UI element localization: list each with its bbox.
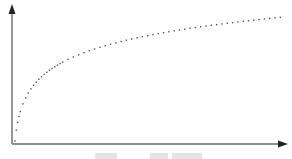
data-point	[38, 79, 39, 80]
data-point	[195, 27, 196, 28]
data-point	[94, 48, 95, 49]
data-point	[242, 21, 243, 22]
data-point	[49, 70, 50, 71]
caption-word	[172, 153, 202, 159]
x-axis-arrow-icon	[278, 141, 288, 148]
data-point	[248, 20, 249, 21]
data-point	[216, 24, 217, 25]
data-point	[179, 29, 180, 30]
data-point	[36, 81, 37, 82]
data-point	[89, 50, 90, 51]
caption-word	[95, 153, 117, 159]
data-point	[51, 68, 52, 69]
data-point	[136, 37, 137, 38]
data-point	[73, 56, 74, 57]
data-point	[78, 54, 79, 55]
data-point	[14, 140, 15, 141]
data-point	[221, 23, 222, 24]
data-point	[126, 40, 127, 41]
data-point	[25, 97, 26, 98]
data-point	[152, 34, 153, 35]
data-point	[20, 111, 21, 112]
caption-word	[150, 153, 168, 159]
data-point	[147, 35, 148, 36]
data-point	[227, 23, 228, 24]
chart	[0, 0, 292, 159]
data-point	[264, 18, 265, 19]
data-point	[16, 129, 17, 130]
data-point	[30, 88, 31, 89]
data-point	[62, 61, 63, 62]
data-point	[110, 44, 111, 45]
data-point	[67, 59, 68, 60]
data-points	[14, 17, 281, 142]
data-point	[189, 28, 190, 29]
data-point	[43, 74, 44, 75]
data-point	[280, 17, 281, 18]
data-point	[131, 38, 132, 39]
data-point	[168, 31, 169, 32]
data-point	[184, 28, 185, 29]
data-point	[237, 21, 238, 22]
data-point	[99, 47, 100, 48]
data-point	[120, 41, 121, 42]
data-point	[200, 26, 201, 27]
data-point	[269, 18, 270, 19]
data-point	[54, 66, 55, 67]
data-point	[59, 63, 60, 64]
y-axis-arrow-icon	[9, 4, 16, 14]
chart-caption	[95, 153, 215, 159]
data-point	[173, 30, 174, 31]
caption-clip	[0, 152, 292, 159]
data-point	[253, 19, 254, 20]
data-point	[28, 92, 29, 93]
data-point	[142, 36, 143, 37]
data-point	[211, 25, 212, 26]
data-point	[105, 45, 106, 46]
data-point	[205, 25, 206, 26]
data-point	[18, 116, 19, 117]
data-point	[33, 85, 34, 86]
data-point	[57, 64, 58, 65]
data-point	[258, 19, 259, 20]
data-point	[163, 32, 164, 33]
data-point	[17, 122, 18, 123]
data-point	[46, 72, 47, 73]
data-point	[232, 22, 233, 23]
data-point	[115, 42, 116, 43]
data-point	[158, 33, 159, 34]
data-point	[41, 76, 42, 77]
data-point	[83, 52, 84, 53]
data-point	[274, 17, 275, 18]
data-point	[22, 103, 23, 104]
